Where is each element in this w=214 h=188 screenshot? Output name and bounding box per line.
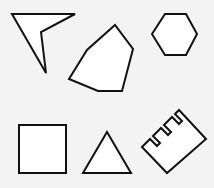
triangle-shape — [83, 132, 131, 173]
heptagon-shape — [69, 25, 133, 91]
square-shape — [19, 125, 66, 173]
comb-shape — [142, 110, 206, 173]
arrowhead-shape — [12, 14, 75, 73]
hexagon-shape — [152, 14, 197, 55]
shapes-canvas — [0, 0, 214, 188]
